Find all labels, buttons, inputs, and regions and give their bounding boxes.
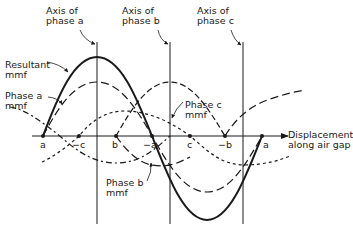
phase-b-mmf-curve xyxy=(10,107,170,163)
phase-a-mmf-label-line2: mmf xyxy=(5,101,42,111)
point-label-a: a xyxy=(40,140,46,150)
point-label-a-end: a xyxy=(263,140,269,150)
phase-c-mmf-label-line2: mmf xyxy=(185,110,222,120)
axis-label-phase-b: Axis of phase b xyxy=(122,6,160,26)
phase-b-mmf-label-line2: mmf xyxy=(106,188,143,198)
axis-label-phase-c: Axis of phase c xyxy=(197,6,234,26)
x-axis-label: Displacement along air gap xyxy=(288,130,353,150)
phase-a-mmf-label: Phase a mmf xyxy=(5,91,42,111)
axis-label-phase-c-line2: phase c xyxy=(197,16,234,26)
phase-a-leader xyxy=(48,97,62,104)
resultant-mmf-label-line2: mmf xyxy=(5,70,50,80)
axis-label-phase-a: Axis of phase a xyxy=(46,6,84,26)
phase-c-axis-leader xyxy=(231,30,241,45)
point-label-b: b xyxy=(112,140,118,150)
phase-b-axis-leader xyxy=(158,30,168,44)
x-axis-label-line2: along air gap xyxy=(288,140,353,150)
point-label-c: c xyxy=(187,140,192,150)
phase-b-mmf-label: Phase b mmf xyxy=(106,178,143,198)
axis-label-phase-a-line2: phase a xyxy=(46,16,84,26)
phase-b-leader xyxy=(147,163,151,181)
resultant-mmf-label: Resultant mmf xyxy=(5,60,50,80)
resultant-leader xyxy=(47,62,68,72)
phase-a-axis-leader xyxy=(80,30,95,44)
point-label-neg-a: −a xyxy=(143,140,157,150)
point-label-neg-c: −c xyxy=(72,140,85,150)
point-label-neg-b: −b xyxy=(218,140,232,150)
phase-c-mmf-label: Phase c mmf xyxy=(185,100,222,120)
phase-c-leader xyxy=(172,102,183,118)
axis-label-phase-b-line2: phase b xyxy=(122,16,160,26)
